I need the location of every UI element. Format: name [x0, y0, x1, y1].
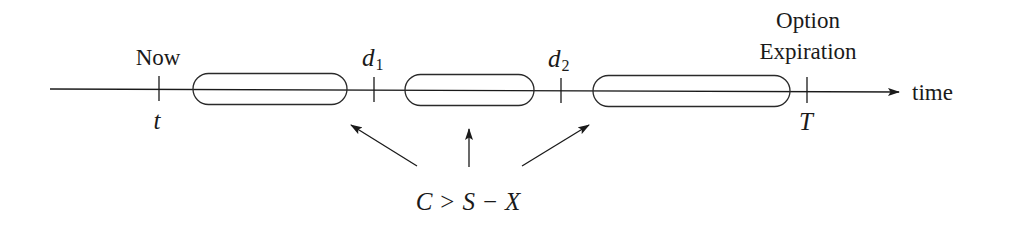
d2-label: d2	[548, 45, 570, 74]
time-axis	[50, 89, 899, 92]
arrow-to-interval-3	[522, 125, 589, 166]
condition-label: C > S − X	[416, 188, 522, 215]
early-exercise-timeline-diagram: time Now t d1 d2 Option Expiration T C >…	[0, 0, 1013, 230]
T-label: T	[799, 108, 815, 135]
d1-label: d1	[362, 44, 384, 73]
option-label: Option	[776, 8, 840, 33]
t-label: t	[154, 107, 162, 134]
now-label: Now	[136, 45, 181, 70]
arrow-to-interval-1	[351, 125, 417, 166]
time-axis-label: time	[912, 80, 953, 105]
expiration-label: Expiration	[759, 39, 857, 64]
